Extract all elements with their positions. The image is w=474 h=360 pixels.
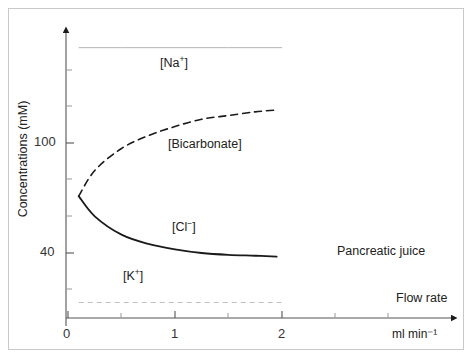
series-label-na: [Na+] [160, 57, 188, 70]
series-line-bicarbonate [79, 110, 277, 196]
series-label-bicarbonate: [Bicarbonate] [168, 138, 242, 151]
figure-canvas: Concentrations (mM) 100 40 0 1 2 ml min⁻… [0, 0, 474, 360]
x-tick-label-0: 0 [63, 327, 70, 340]
y-tick-label-40: 40 [40, 245, 54, 258]
y-axis-title: Concentrations (mM) [16, 99, 30, 219]
x-axis-title: ml min⁻¹ [392, 328, 437, 340]
series-label-chloride-text: [Cl [172, 220, 187, 234]
x-tick-label-2: 2 [278, 327, 285, 340]
annotation-flow-rate: Flow rate [396, 292, 447, 305]
annotation-pancreatic-juice: Pancreatic juice [337, 245, 425, 258]
series-label-na-text: [Na [160, 56, 179, 70]
series-label-potassium-bracket: ] [140, 269, 143, 283]
series-label-chloride-bracket: ] [192, 220, 195, 234]
series-label-potassium-text: [K [123, 269, 135, 283]
x-tick-label-1: 1 [171, 327, 178, 340]
plot-area [0, 0, 474, 360]
series-label-chloride: [Cl−] [172, 221, 196, 234]
x-axis-title-text: ml min⁻¹ [392, 327, 437, 341]
y-tick-label-100: 100 [34, 135, 56, 148]
series-label-potassium: [K+] [123, 270, 143, 283]
series-label-na-bracket: ] [184, 56, 187, 70]
